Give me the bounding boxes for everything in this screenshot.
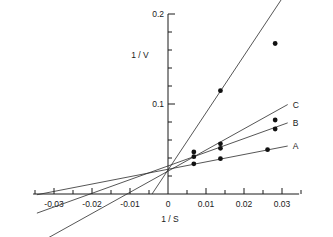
data-point-a: [265, 147, 270, 152]
data-point-d: [218, 88, 223, 93]
series-label-c: C: [293, 100, 299, 110]
fit-line-a: [37, 146, 288, 195]
y-axis-label: 1 / V: [131, 50, 149, 60]
series-label-b: B: [293, 118, 299, 128]
x-tick-label: 0: [166, 199, 171, 209]
data-point-b: [191, 154, 196, 159]
data-point-d: [273, 41, 278, 46]
data-point-b: [218, 146, 223, 151]
data-point-c: [273, 118, 278, 123]
x-axis-tick-labels: -0.03-0.02-0.0100.010.020.03: [44, 199, 290, 209]
data-point-b: [273, 127, 278, 132]
x-tick-label: -0.02: [82, 199, 102, 209]
data-point-c: [191, 149, 196, 154]
series-label-a: A: [293, 141, 299, 151]
y-tick-label: 0.2: [152, 9, 164, 19]
data-point-a: [218, 156, 223, 161]
x-tick-label: -0.01: [120, 199, 140, 209]
fit-line-d: [152, 0, 288, 194]
x-tick-label: 0.01: [198, 199, 215, 209]
series-labels-group: ABCD: [293, 0, 299, 151]
y-axis-ticks: [168, 14, 175, 176]
x-tick-label: -0.03: [44, 199, 64, 209]
data-points-group: [191, 41, 277, 166]
chart-canvas: -0.03-0.02-0.0100.010.020.03 0.10.2 ABCD…: [0, 0, 333, 237]
y-axis-tick-labels: 0.10.2: [152, 9, 164, 109]
x-tick-label: 0.02: [236, 199, 253, 209]
x-axis-label: 1 / S: [161, 214, 179, 224]
x-tick-label: 0.03: [274, 199, 291, 209]
y-tick-label: 0.1: [152, 99, 164, 109]
data-point-a: [191, 161, 196, 166]
data-point-c: [218, 141, 223, 146]
chart-figure: -0.03-0.02-0.0100.010.020.03 0.10.2 ABCD…: [0, 0, 333, 237]
